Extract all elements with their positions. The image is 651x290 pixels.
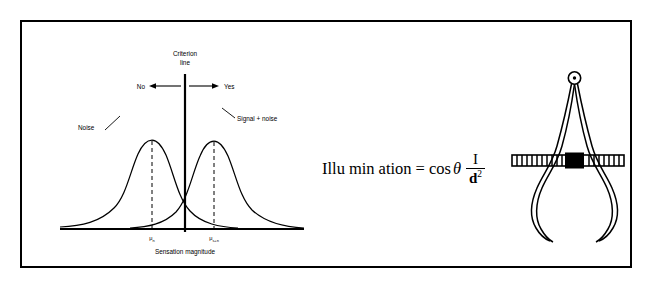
noise-label: Noise <box>78 124 95 131</box>
figure-frame: Criterion line No Yes Noise Signal + noi… <box>20 20 632 268</box>
noise-leader-line <box>105 116 120 130</box>
equation-exponent: 2 <box>477 169 482 179</box>
no-arrow-head-icon <box>149 83 156 89</box>
signal-detection-chart: Criterion line No Yes Noise Signal + noi… <box>52 42 312 257</box>
equation-cos: cos <box>429 161 451 178</box>
equation-equals: = <box>416 161 425 178</box>
illumination-equation: Illu min ation = cos θ I d2 <box>322 152 512 187</box>
equation-theta: θ <box>451 161 462 178</box>
mu-signal-label: μs+n <box>209 235 219 243</box>
sdt-chart-svg: Criterion line No Yes Noise Signal + noi… <box>52 42 312 257</box>
yes-arrow-head-icon <box>212 83 219 89</box>
equation-numerator: I <box>470 152 481 167</box>
yes-label: Yes <box>224 83 234 90</box>
signal-leader-line <box>222 108 235 118</box>
mu-noise-label: μn <box>149 235 154 243</box>
equation-fraction: I d2 <box>466 152 485 187</box>
equation-term-illu: Illu <box>322 161 345 178</box>
criterion-label-line1: Criterion <box>173 50 198 57</box>
signal-noise-label: Signal + noise <box>237 115 278 123</box>
illumination-equation-panel: Illu min ation = cos θ I d2 <box>322 152 512 204</box>
x-axis-label: Sensation magnitude <box>155 248 215 256</box>
caliper-diagram <box>502 62 647 257</box>
criterion-label-line2: line <box>180 59 190 66</box>
slider-block[interactable] <box>565 153 584 169</box>
equation-denominator: d2 <box>466 170 485 186</box>
noise-curve <box>60 140 238 228</box>
signal-noise-curve <box>130 141 304 228</box>
pivot-center-dot-icon <box>573 76 576 79</box>
caliper-svg <box>502 62 647 257</box>
equation-term-ation: ation <box>379 161 412 178</box>
equation-term-min: min <box>349 161 375 178</box>
no-label: No <box>137 83 146 90</box>
